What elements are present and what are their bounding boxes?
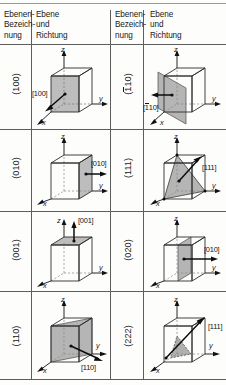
axis-label-y: y xyxy=(209,341,213,350)
header-line: nung xyxy=(4,31,30,41)
axis-label-x: x xyxy=(43,366,47,375)
axis-label-y: y xyxy=(99,263,103,272)
axis-label-y: y xyxy=(99,94,103,103)
axis-label-y: y xyxy=(96,341,100,350)
plane-index-r3-left: (001) xyxy=(11,226,21,274)
direction-label-r2-right: [111] xyxy=(202,163,216,172)
header-line: und xyxy=(150,20,222,30)
header-line: Richtung xyxy=(150,31,222,41)
diagram-r2-right: [111] z y x xyxy=(146,133,222,209)
axis-label-y: y xyxy=(99,181,103,190)
header-diagram-left: Ebene und Richtung xyxy=(36,10,106,41)
axis-label-z: z xyxy=(174,295,178,304)
diagram-r3-left: [001] z y x xyxy=(33,215,109,289)
header-line: Ebenen- xyxy=(4,10,30,20)
axis-label-z: z xyxy=(57,216,61,225)
header-line: und xyxy=(36,20,106,30)
diagram-r1-right: [110] z y x xyxy=(146,46,222,128)
cube-110 xyxy=(33,296,111,376)
axis-label-x: x xyxy=(156,199,160,208)
cube-222 xyxy=(146,296,224,376)
axis-label-y: y xyxy=(212,94,216,103)
plane-index-text: (100) xyxy=(11,73,21,94)
plane-index-text: (111) xyxy=(123,158,133,178)
plane-index-text: (110) xyxy=(123,73,133,94)
direction-label-r1-left: [100] xyxy=(32,89,47,98)
header-line: Ebene xyxy=(36,10,106,20)
axis-label-z: z xyxy=(174,214,178,223)
direction-label-r1-right: [110] xyxy=(143,103,158,112)
plane-index-r2-left: (010) xyxy=(11,144,21,192)
header-line: Ebenen- xyxy=(115,10,143,20)
table-top-rule xyxy=(0,3,226,4)
plane-index-r1-right: (110) xyxy=(123,60,133,108)
miller-index-table: Ebenen- Bezeich- nung Ebenen- Bezeich- n… xyxy=(0,0,226,385)
plane-index-text: (110) xyxy=(11,326,21,347)
header-line: nung xyxy=(115,31,143,41)
plane-index-text: (001) xyxy=(11,239,21,260)
column-rule-3 xyxy=(143,10,144,379)
plane-index-r3-right: (020) xyxy=(123,226,133,274)
row-separator-rule-1 xyxy=(0,129,226,130)
axis-label-x: x xyxy=(43,199,47,208)
table-bottom-rule xyxy=(0,379,226,380)
plane-index-text: (020) xyxy=(123,239,133,260)
row-separator-rule-2 xyxy=(0,211,226,212)
header-line: Bezeich- xyxy=(115,20,143,30)
axis-label-x: x xyxy=(43,281,47,290)
plane-index-r1-left: (100) xyxy=(11,60,21,108)
diagram-r3-right: [010] z y x xyxy=(146,215,222,289)
diagram-r2-left: [010] z y x xyxy=(33,133,109,209)
axis-label-x: x xyxy=(156,366,160,375)
header-line: Ebene xyxy=(150,10,222,20)
header-diagram-right: Ebene und Richtung xyxy=(150,10,222,41)
axis-label-y: y xyxy=(212,263,216,272)
plane-index-r4-left: (110) xyxy=(11,312,21,360)
cube-010 xyxy=(33,133,109,209)
diagram-r4-right: [111] z y x xyxy=(146,296,224,376)
cube-1bar10 xyxy=(146,46,222,128)
axis-label-z: z xyxy=(61,132,65,141)
axis-label-x: x xyxy=(156,281,160,290)
header-index-left: Ebenen- Bezeich- nung xyxy=(4,10,30,41)
cube-001 xyxy=(33,215,109,289)
axis-label-x: x xyxy=(160,118,164,127)
plane-index-text: (010) xyxy=(11,157,21,178)
row-separator-rule-3 xyxy=(0,291,226,292)
axis-label-z: z xyxy=(174,132,178,141)
cube-100 xyxy=(33,46,109,128)
diagram-r1-left: [100] z y x xyxy=(33,46,109,128)
axis-label-z: z xyxy=(61,295,65,304)
header-separator-rule xyxy=(0,44,226,45)
axis-label-y: y xyxy=(212,181,216,190)
axis-label-x: x xyxy=(42,118,46,127)
direction-label-r3-right: [010] xyxy=(204,245,219,254)
plane-index-r4-right: (222) xyxy=(123,312,133,360)
diagram-r4-left: [110] z y x xyxy=(33,296,111,376)
direction-label-r4-left: [110] xyxy=(81,363,96,372)
header-line: Bezeich- xyxy=(4,20,30,30)
header-index-right: Ebenen- Bezeich- nung xyxy=(115,10,143,41)
axis-label-z: z xyxy=(61,45,65,54)
plane-index-text: (222) xyxy=(123,325,133,346)
column-rule-1 xyxy=(31,10,32,379)
direction-label-r4-right: [111] xyxy=(208,322,222,331)
direction-label-r3-left: [001] xyxy=(78,216,93,225)
plane-index-r2-right: (111) xyxy=(123,144,133,192)
direction-label-r2-left: [010] xyxy=(91,159,106,168)
header-line: Richtung xyxy=(36,31,106,41)
axis-label-z: z xyxy=(174,45,178,54)
